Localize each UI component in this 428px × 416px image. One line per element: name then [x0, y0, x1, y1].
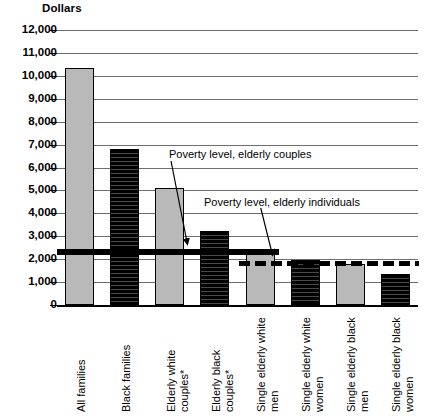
- y-axis-tick-mark: [50, 53, 57, 54]
- y-axis-tick-mark: [50, 259, 57, 260]
- gridline: [57, 99, 418, 100]
- bar: [381, 274, 410, 305]
- bar: [155, 188, 184, 305]
- x-axis-category-label: Elderly white couples*: [165, 308, 183, 412]
- gridline: [57, 145, 418, 146]
- y-axis-tick-mark: [50, 282, 57, 283]
- y-axis-title: Dollars: [42, 2, 82, 14]
- poverty-level-individuals-line: [239, 261, 419, 266]
- y-axis-tick-mark: [50, 145, 57, 146]
- x-axis-category-label: Single elderly white women: [300, 308, 318, 412]
- gridline: [57, 53, 418, 54]
- x-axis-category-label: Single elderly white men: [255, 308, 273, 412]
- x-axis-category-label: Single elderly black women: [390, 308, 408, 412]
- bar: [200, 231, 229, 305]
- gridline: [57, 122, 418, 123]
- y-axis-tick-mark: [50, 236, 57, 237]
- bar: [291, 260, 320, 305]
- y-axis-tick-mark: [50, 76, 57, 77]
- y-axis-tick-group: 12,00011,00010,0009,0008,0007,0006,0005,…: [0, 30, 57, 305]
- plot-area: [57, 30, 418, 305]
- y-axis-tick-mark: [50, 30, 57, 31]
- x-axis-category-label: Elderly black couples*: [210, 308, 228, 412]
- poverty-income-bar-chart: Dollars 12,00011,00010,0009,0008,0007,00…: [0, 0, 428, 416]
- annotation-poverty-individuals: Poverty level, elderly individuals: [202, 196, 362, 208]
- x-axis-category-label: Black families: [120, 308, 138, 412]
- y-axis-tick-mark: [50, 305, 57, 306]
- x-axis-label-group: All familiesBlack familiesElderly white …: [57, 308, 418, 416]
- annotation-poverty-couples: Poverty level, elderly couples: [167, 148, 313, 160]
- gridline: [57, 305, 418, 307]
- bar: [110, 149, 139, 305]
- bar: [65, 68, 94, 305]
- gridline: [57, 30, 418, 31]
- gridline: [57, 76, 418, 77]
- y-axis-tick-mark: [50, 190, 57, 191]
- poverty-level-couples-line: [57, 249, 279, 255]
- y-axis-tick-mark: [50, 213, 57, 214]
- y-axis-tick-mark: [50, 168, 57, 169]
- y-axis-tick-mark: [50, 122, 57, 123]
- x-axis-category-label: Single elderly black men: [345, 308, 363, 412]
- y-axis-tick-mark: [50, 99, 57, 100]
- x-axis-category-label: All families: [75, 308, 93, 412]
- bar: [246, 250, 275, 305]
- bar: [336, 264, 365, 305]
